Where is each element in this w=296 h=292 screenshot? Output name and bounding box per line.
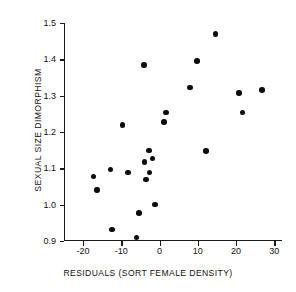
y-tick-label: 1.2 — [30, 127, 56, 137]
y-tick-label: 1.5 — [30, 18, 56, 28]
data-point — [194, 58, 200, 64]
x-tick-label: 10 — [183, 246, 213, 256]
x-tick — [236, 241, 237, 246]
data-point — [146, 148, 152, 154]
y-tick-label: 1.4 — [30, 54, 56, 64]
y-tick — [60, 96, 65, 97]
scatter-plot-figure: SEXUAL SIZE DIMORPHISM RESIDUALS (SORT F… — [0, 0, 296, 292]
y-tick-label: 1.3 — [30, 91, 56, 101]
y-tick — [60, 59, 65, 60]
data-point — [109, 227, 115, 233]
data-point — [240, 110, 246, 116]
y-tick — [60, 205, 65, 206]
data-point — [163, 110, 169, 116]
data-point — [120, 122, 126, 128]
x-tick — [160, 241, 161, 246]
plot-area: 0.91.01.11.21.31.41.5 -20-100102030 — [64, 23, 282, 241]
y-tick — [60, 132, 65, 133]
y-tick — [60, 168, 65, 169]
y-tick — [60, 23, 65, 24]
data-point — [161, 119, 167, 125]
data-point — [152, 202, 158, 208]
x-tick-label: -20 — [68, 246, 98, 256]
y-tick-label: 1.0 — [30, 200, 56, 210]
data-point — [213, 31, 219, 37]
x-axis-title: RESIDUALS (SORT FEMALE DENSITY) — [0, 268, 296, 278]
data-point — [94, 187, 100, 193]
x-tick — [198, 241, 199, 246]
data-point — [108, 167, 114, 173]
data-point — [91, 174, 97, 180]
y-axis-line — [64, 23, 65, 241]
data-point — [125, 170, 131, 176]
data-point — [143, 177, 149, 183]
data-point — [187, 85, 193, 91]
y-tick — [60, 241, 65, 242]
x-tick — [83, 241, 84, 246]
x-axis-line — [64, 240, 282, 241]
x-tick — [274, 241, 275, 246]
data-point — [236, 90, 242, 96]
data-point — [147, 170, 153, 176]
y-tick-label: 0.9 — [30, 236, 56, 246]
data-point — [203, 148, 209, 154]
x-tick-label: 30 — [259, 246, 289, 256]
data-point — [259, 87, 265, 93]
data-point — [150, 156, 156, 162]
x-tick-label: 0 — [145, 246, 175, 256]
data-point — [141, 62, 147, 68]
x-tick — [121, 241, 122, 246]
data-point — [142, 159, 148, 165]
x-tick-label: 20 — [221, 246, 251, 256]
data-point — [136, 210, 142, 216]
y-tick-label: 1.1 — [30, 163, 56, 173]
x-tick-label: -10 — [106, 246, 136, 256]
